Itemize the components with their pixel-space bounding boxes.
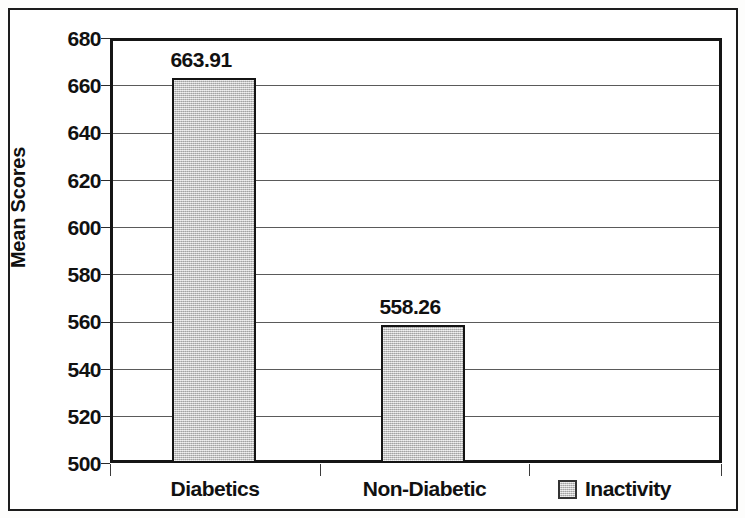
y-tick-mark-620 — [101, 180, 110, 181]
y-axis: 680 660 640 620 600 580 560 540 520 500 — [0, 0, 101, 518]
y-tick-mark-520 — [101, 416, 110, 417]
bar-non-diabetic[interactable] — [381, 325, 465, 463]
chart-page: Mean Scores 680 660 640 620 600 580 560 … — [0, 0, 745, 518]
y-tick-label-620: 620 — [0, 169, 101, 193]
legend-swatch-inactivity — [558, 480, 577, 499]
y-tick-mark-580 — [101, 274, 110, 275]
x-tick-mark-1 — [320, 464, 321, 476]
y-tick-label-680: 680 — [0, 27, 101, 51]
y-tick-mark-600 — [101, 227, 110, 228]
y-tick-mark-540 — [101, 369, 110, 370]
x-tick-mark-3 — [721, 464, 722, 476]
bar-diabetics[interactable] — [172, 78, 256, 463]
y-tick-label-640: 640 — [0, 121, 101, 145]
x-tick-mark-0 — [110, 464, 111, 476]
x-axis-label-diabetics: Diabetics — [110, 477, 320, 501]
y-tick-label-500: 500 — [0, 452, 101, 476]
y-tick-label-600: 600 — [0, 216, 101, 240]
bar-value-diabetics: 663.91 — [151, 48, 251, 72]
y-tick-label-560: 560 — [0, 310, 101, 334]
bar-value-non-diabetic: 558.26 — [360, 295, 460, 319]
y-tick-mark-560 — [101, 322, 110, 323]
x-tick-mark-2 — [529, 464, 530, 476]
x-axis-label-non-diabetic: Non-Diabetic — [320, 477, 529, 501]
y-tick-mark-680 — [101, 38, 110, 39]
plot-area — [110, 38, 722, 463]
y-tick-label-520: 520 — [0, 405, 101, 429]
y-tick-label-540: 540 — [0, 358, 101, 382]
y-tick-label-660: 660 — [0, 74, 101, 98]
y-tick-mark-500 — [101, 463, 110, 464]
legend: Inactivity — [558, 477, 671, 501]
y-tick-label-580: 580 — [0, 263, 101, 287]
y-tick-mark-660 — [101, 85, 110, 86]
legend-label-inactivity: Inactivity — [585, 477, 671, 501]
y-tick-mark-640 — [101, 133, 110, 134]
